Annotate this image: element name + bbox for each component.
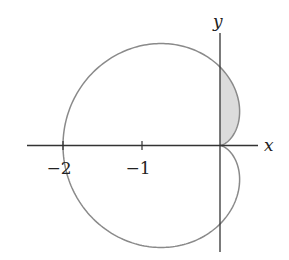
y-axis-label: y	[212, 11, 223, 31]
tick-label-neg2: −2	[46, 158, 71, 178]
x-axis-label: x	[264, 135, 274, 155]
tick-label-neg1: −1	[125, 158, 150, 178]
cardioid-figure: −2 −1 x y	[0, 0, 289, 260]
cardioid-plot: −2 −1 x y	[0, 0, 289, 260]
